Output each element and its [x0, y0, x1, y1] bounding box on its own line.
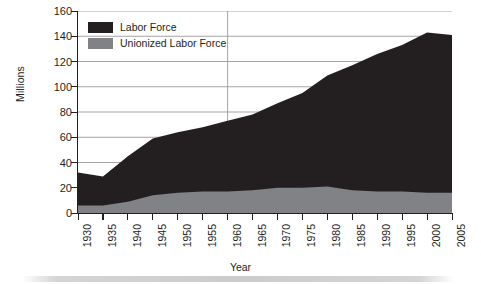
y-tick-label: 160 [40, 6, 72, 17]
bottom-decorative-strip [22, 276, 454, 282]
y-tick-label: 140 [40, 31, 72, 42]
x-tick-mark [302, 213, 303, 220]
chart-legend: Labor Force Unionized Labor Force [88, 20, 226, 50]
y-tick-label: 40 [40, 157, 72, 168]
x-tick-label: 1975 [306, 224, 317, 264]
x-tick-label: 1940 [132, 224, 143, 264]
x-tick-label: 1995 [406, 224, 417, 264]
legend-item-labor-force: Labor Force [88, 20, 226, 34]
area-series-labor-force [78, 32, 452, 213]
x-tick-mark [202, 213, 203, 220]
y-tick-label: 80 [40, 107, 72, 118]
x-tick-label: 2000 [431, 224, 442, 264]
y-tick-label: 20 [40, 182, 72, 193]
legend-swatch-labor-force [88, 22, 113, 33]
y-tick-label: 60 [40, 132, 72, 143]
x-tick-mark [252, 213, 253, 220]
legend-item-unionized-labor-force: Unionized Labor Force [88, 36, 226, 50]
x-tick-label: 1985 [356, 224, 367, 264]
y-tick-label: 120 [40, 56, 72, 67]
x-tick-mark [352, 213, 353, 220]
x-tick-mark [452, 213, 453, 220]
x-tick-mark [102, 213, 103, 220]
x-tick-label: 1950 [182, 224, 193, 264]
x-tick-label: 1980 [331, 224, 342, 264]
x-tick-mark [277, 213, 278, 220]
x-tick-mark [78, 213, 79, 220]
x-tick-label: 1955 [207, 224, 218, 264]
x-tick-mark [127, 213, 128, 220]
y-tick-label: 100 [40, 81, 72, 92]
x-tick-mark [402, 213, 403, 220]
legend-label-labor-force: Labor Force [120, 22, 177, 33]
legend-label-unionized-labor-force: Unionized Labor Force [120, 38, 226, 49]
x-tick-label: 2005 [456, 224, 467, 264]
x-tick-mark [327, 213, 328, 220]
x-tick-mark [177, 213, 178, 220]
x-tick-mark [227, 213, 228, 220]
x-tick-label: 1960 [232, 224, 243, 264]
x-tick-mark [377, 213, 378, 220]
x-axis-title: Year [0, 261, 481, 273]
x-tick-label: 1965 [257, 224, 268, 264]
chart-figure: Millions 020406080100120140160 193019351… [0, 0, 481, 284]
x-tick-label: 1990 [381, 224, 392, 264]
x-tick-label: 1930 [82, 224, 93, 264]
x-tick-label: 1935 [107, 224, 118, 264]
x-tick-mark [427, 213, 428, 220]
y-axis-title: Millions [14, 44, 26, 124]
y-axis-tick-labels: 020406080100120140160 [36, 0, 72, 284]
x-tick-label: 1945 [157, 224, 168, 264]
legend-swatch-unionized-labor-force [88, 38, 113, 49]
x-tick-mark [152, 213, 153, 220]
y-tick-label: 0 [40, 208, 72, 219]
x-tick-label: 1970 [281, 224, 292, 264]
